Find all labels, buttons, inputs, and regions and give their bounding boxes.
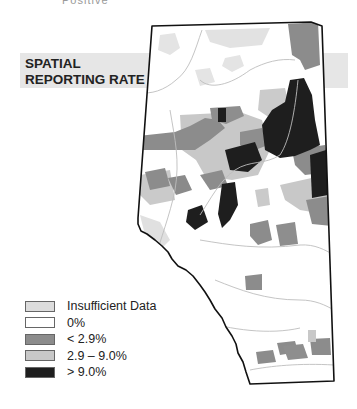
legend-item-insufficient-data: Insufficient Data: [25, 298, 156, 315]
legend-item-zero: 0%: [25, 315, 156, 332]
map-title: SPATIAL REPORTING RATE: [25, 56, 145, 88]
legend-label: 2.9 – 9.0%: [67, 349, 127, 363]
legend-label: 0%: [67, 316, 85, 330]
title-line-1: SPATIAL: [25, 56, 145, 72]
region-fills: [130, 20, 340, 390]
legend-swatch: [25, 317, 55, 328]
legend-item-low: < 2.9%: [25, 331, 156, 348]
legend-swatch: [25, 350, 55, 361]
legend-label: > 9.0%: [67, 365, 106, 379]
legend-label: < 2.9%: [67, 332, 106, 346]
legend-item-medium: 2.9 – 9.0%: [25, 348, 156, 365]
legend-item-high: > 9.0%: [25, 364, 156, 381]
legend: Insufficient Data 0% < 2.9% 2.9 – 9.0% >…: [25, 298, 156, 381]
legend-swatch: [25, 334, 55, 345]
legend-swatch: [25, 301, 55, 312]
legend-label: Insufficient Data: [67, 299, 156, 313]
title-line-2: REPORTING RATE: [25, 72, 145, 88]
legend-swatch: [25, 367, 55, 378]
